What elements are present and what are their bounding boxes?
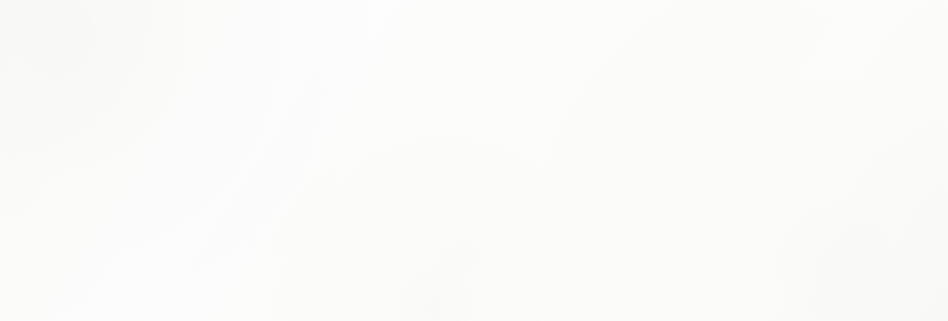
graph-edge xyxy=(678,28,796,66)
graph-node[interactable] xyxy=(889,218,904,233)
graph-node[interactable] xyxy=(632,134,647,149)
graph-node[interactable] xyxy=(705,33,720,48)
graph-node[interactable] xyxy=(830,33,845,48)
graph-node[interactable] xyxy=(746,291,761,306)
graph-node[interactable] xyxy=(889,93,904,108)
network-svg-random xyxy=(0,0,948,321)
graph-edge xyxy=(754,28,797,299)
network-panel-random xyxy=(0,0,948,321)
figure-root xyxy=(0,0,948,321)
graph-node[interactable] xyxy=(632,177,647,192)
graph-node[interactable] xyxy=(789,291,804,306)
graph-node[interactable] xyxy=(903,134,918,149)
graph-edge xyxy=(713,184,911,285)
graph-edge xyxy=(678,66,796,298)
graph-node[interactable] xyxy=(830,277,845,292)
graph-node[interactable] xyxy=(705,277,720,292)
graph-node[interactable] xyxy=(864,59,879,74)
graph-node[interactable] xyxy=(864,252,879,267)
graph-edge xyxy=(754,28,898,226)
graph-node[interactable] xyxy=(903,177,918,192)
graph-node[interactable] xyxy=(645,93,660,108)
graph-node[interactable] xyxy=(671,59,686,74)
graph-node[interactable] xyxy=(746,20,761,35)
graph-node[interactable] xyxy=(789,20,804,35)
graph-node[interactable] xyxy=(645,218,660,233)
graph-node[interactable] xyxy=(671,252,686,267)
graph-edge xyxy=(796,28,897,101)
